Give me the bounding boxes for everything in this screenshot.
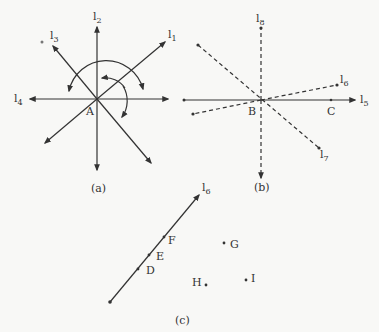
line-l6-c — [110, 195, 199, 302]
label-point-h: H — [192, 276, 202, 289]
point-d — [137, 268, 140, 271]
label-point-e: E — [156, 250, 164, 263]
label-l6-b: l6 — [340, 73, 349, 88]
point-e — [148, 254, 151, 257]
label-point-f: F — [168, 234, 176, 247]
l5-endpoint — [183, 99, 186, 102]
angle-arc-large — [69, 61, 143, 91]
stray-dot — [41, 41, 44, 44]
point-c-dot — [330, 99, 333, 102]
caption-a: (a) — [91, 182, 106, 195]
label-l5: l5 — [360, 93, 369, 108]
line-l6 — [261, 85, 337, 100]
caption-c: (c) — [175, 314, 190, 327]
figure-c: l6 D E F G H I (c) — [108, 181, 255, 327]
diagram-canvas: l2 l1 l3 l4 A (a) l8 l6 l5 l7 B C (b) — [0, 0, 379, 332]
label-l6-c: l6 — [202, 181, 211, 196]
line-l7 — [198, 45, 319, 148]
figure-b: l8 l6 l5 l7 B C (b) — [183, 12, 369, 194]
figure-a: l2 l1 l3 l4 A (a) — [14, 10, 177, 195]
label-point-a: A — [85, 105, 95, 118]
point-i — [245, 279, 248, 282]
l6-left-endpoint — [191, 112, 194, 115]
label-l1: l1 — [168, 28, 177, 43]
point-h — [205, 284, 208, 287]
label-point-i: I — [251, 272, 255, 285]
label-point-g: G — [230, 238, 239, 251]
geometry-figure: l2 l1 l3 l4 A (a) l8 l6 l5 l7 B C (b) — [0, 0, 379, 332]
point-f — [163, 236, 166, 239]
caption-b: (b) — [254, 181, 270, 194]
label-point-d: D — [146, 264, 155, 277]
l6-endpoint — [335, 83, 338, 86]
label-l7: l7 — [320, 148, 329, 163]
point-g — [223, 242, 226, 245]
label-l2: l2 — [93, 10, 102, 25]
angle-arc-small — [102, 78, 125, 88]
l6-c-endpoint — [108, 300, 112, 304]
line-l3 — [53, 46, 97, 99]
label-point-b: B — [248, 105, 256, 118]
label-point-c: C — [327, 105, 335, 118]
line-l3-down — [97, 99, 151, 163]
label-l3: l3 — [50, 29, 59, 44]
l7-endpoint — [196, 43, 199, 46]
label-l4: l4 — [14, 92, 23, 107]
label-l8: l8 — [256, 12, 265, 27]
angle-arc-right — [122, 86, 127, 117]
